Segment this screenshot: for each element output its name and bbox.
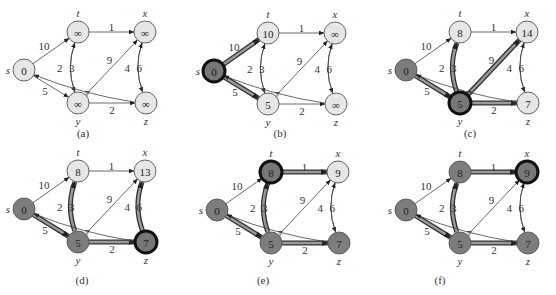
vertex-distance: ∞ bbox=[141, 27, 149, 39]
edge-y-z: 2 bbox=[279, 104, 325, 117]
vertex-name: z bbox=[336, 255, 342, 267]
edge-y-t: 3 bbox=[262, 183, 268, 232]
vertex-z: 7z bbox=[517, 92, 539, 127]
edge-s-t: 10 bbox=[415, 178, 451, 203]
edge-weight: 6 bbox=[137, 201, 143, 213]
vertex-y: 5y bbox=[257, 93, 279, 128]
vertex-name: x bbox=[142, 146, 148, 158]
vertex-name: t bbox=[269, 147, 273, 159]
edge-weight: 6 bbox=[519, 62, 525, 74]
edge-y-z: 2 bbox=[282, 243, 328, 256]
panel-b: 105123924670s10t∞x5y∞z(b) bbox=[196, 8, 347, 140]
edge-z-x: 6 bbox=[137, 43, 143, 92]
vertex-distance: 0 bbox=[21, 204, 27, 216]
panel-caption: (b) bbox=[274, 127, 287, 140]
vertex-distance: 0 bbox=[403, 205, 409, 217]
edge-weight: 1 bbox=[109, 21, 115, 33]
edge-weight: 2 bbox=[250, 202, 256, 214]
panel-caption: (d) bbox=[76, 274, 89, 287]
vertex-name: y bbox=[265, 116, 271, 128]
panel-caption: (a) bbox=[77, 127, 90, 140]
edge-weight: 3 bbox=[259, 63, 265, 75]
vertex-name: z bbox=[333, 116, 339, 128]
vertex-name: y bbox=[75, 254, 81, 266]
edge-s-y: 5 bbox=[415, 216, 450, 238]
edge-t-x: 1 bbox=[89, 21, 134, 33]
edge-s-y: 5 bbox=[415, 76, 450, 98]
edge-z-x: 6 bbox=[519, 43, 525, 92]
edge-z-x: 6 bbox=[137, 182, 143, 231]
edge-weight: 2 bbox=[439, 202, 445, 214]
edge-s-y: 5 bbox=[226, 216, 261, 238]
edge-weight: 9 bbox=[489, 54, 495, 66]
vertex-t: 8t bbox=[449, 7, 471, 43]
edge-weight: 4 bbox=[125, 201, 131, 213]
vertex-distance: ∞ bbox=[332, 99, 340, 111]
vertex-name: x bbox=[332, 8, 338, 20]
vertex-name: x bbox=[524, 7, 530, 19]
vertex-name: y bbox=[457, 255, 463, 267]
edge-weight: 5 bbox=[235, 225, 241, 237]
edge-weight: 3 bbox=[262, 202, 268, 214]
vertex-distance: 5 bbox=[457, 238, 463, 250]
vertex-distance: 7 bbox=[143, 237, 149, 249]
edge-z-x: 6 bbox=[519, 183, 525, 232]
vertex-distance: 8 bbox=[457, 167, 463, 179]
vertex-t: 8t bbox=[260, 147, 282, 183]
edge-weight: 2 bbox=[491, 104, 497, 116]
edge-y-t: 3 bbox=[451, 43, 457, 92]
vertex-name: t bbox=[458, 7, 462, 19]
edge-t-x: 1 bbox=[471, 21, 516, 33]
edge-y-t: 3 bbox=[259, 44, 265, 93]
vertex-name: x bbox=[524, 147, 530, 159]
vertex-z: 7z bbox=[135, 231, 157, 266]
edge-s-y: 5 bbox=[33, 76, 68, 98]
edge-s-t: 10 bbox=[33, 38, 69, 63]
vertex-distance: 8 bbox=[457, 27, 463, 39]
edge-y-z: 2 bbox=[471, 103, 517, 116]
edge-weight: 9 bbox=[107, 193, 113, 205]
edge-weight: 3 bbox=[69, 62, 75, 74]
panel-f: 105123924670s8t9x5y7z(f) bbox=[388, 147, 539, 287]
vertex-name: y bbox=[457, 115, 463, 127]
vertex-distance: 8 bbox=[75, 166, 81, 178]
edge-s-t: 10 bbox=[226, 178, 262, 203]
vertex-distance: 8 bbox=[268, 167, 274, 179]
vertex-y: 5y bbox=[449, 232, 471, 267]
edge-y-t: 3 bbox=[69, 182, 75, 231]
vertex-name: z bbox=[525, 255, 531, 267]
edge-weight: 5 bbox=[424, 85, 430, 97]
vertex-distance: 14 bbox=[522, 27, 534, 39]
edge-weight: 5 bbox=[42, 85, 48, 97]
edge-t-x: 1 bbox=[471, 161, 516, 173]
vertex-name: z bbox=[143, 115, 149, 127]
vertex-x: ∞x bbox=[134, 7, 156, 43]
vertex-name: s bbox=[388, 204, 392, 216]
edge-weight: 6 bbox=[327, 63, 333, 75]
edge-weight: 4 bbox=[507, 62, 513, 74]
edge-weight: 2 bbox=[247, 63, 253, 75]
vertex-y: 5y bbox=[67, 231, 89, 266]
vertex-z: 7z bbox=[517, 232, 539, 267]
vertex-distance: 0 bbox=[211, 66, 217, 78]
edge-weight: 10 bbox=[421, 180, 433, 192]
edge-weight: 5 bbox=[232, 86, 238, 98]
vertex-distance: 9 bbox=[524, 167, 530, 179]
edge-weight: 1 bbox=[299, 22, 305, 34]
edge-weight: 1 bbox=[302, 161, 308, 173]
vertex-distance: ∞ bbox=[331, 28, 339, 40]
vertex-s: 0s bbox=[388, 199, 417, 221]
vertex-distance: 0 bbox=[21, 65, 27, 77]
vertex-x: 9x bbox=[327, 147, 349, 183]
vertex-name: x bbox=[335, 147, 341, 159]
vertex-y: 5y bbox=[449, 92, 471, 127]
edge-weight: 2 bbox=[491, 244, 497, 256]
vertex-name: s bbox=[388, 64, 392, 76]
vertex-s: 0s bbox=[6, 198, 35, 220]
edge-s-y: 5 bbox=[223, 77, 258, 99]
vertex-name: z bbox=[143, 254, 149, 266]
edge-t-x: 1 bbox=[89, 160, 134, 172]
edge-s-y: 5 bbox=[33, 215, 68, 237]
vertex-distance: 5 bbox=[265, 99, 271, 111]
panel-caption: (c) bbox=[464, 127, 477, 140]
